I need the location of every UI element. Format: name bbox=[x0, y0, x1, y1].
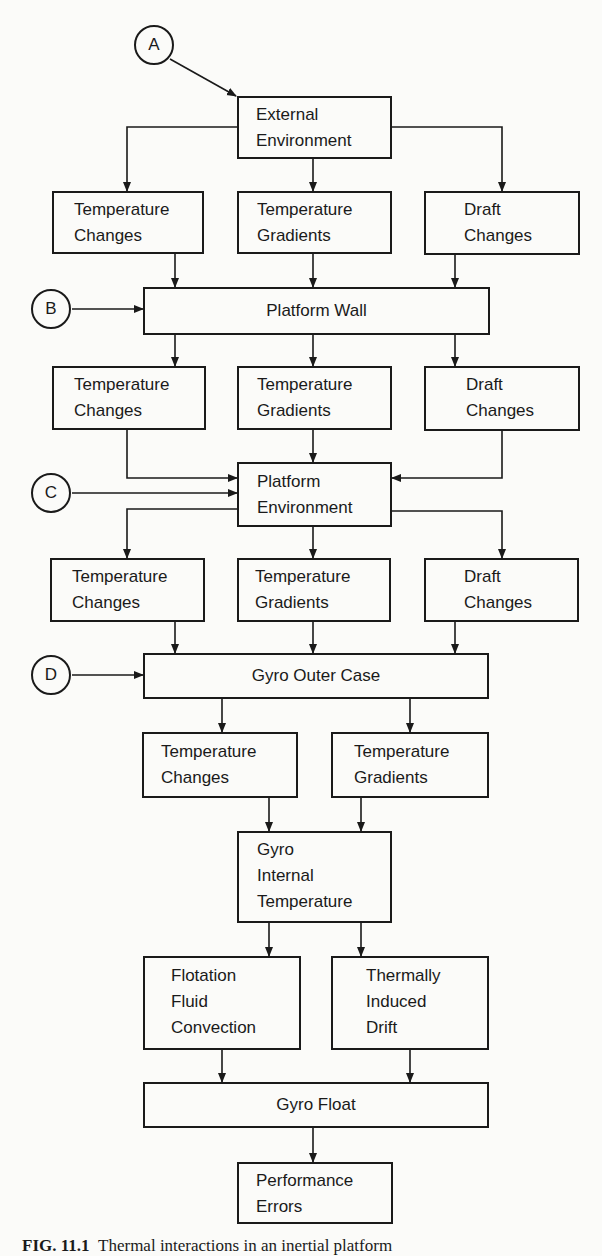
connector-a-label: A bbox=[148, 35, 159, 55]
node-performance-errors: Performance Errors bbox=[237, 1162, 393, 1224]
node-row3-draft-changes: Draft Changes bbox=[424, 558, 579, 622]
node-row2-temperature-changes: Temperature Changes bbox=[52, 366, 206, 430]
node-row4-temperature-changes: Temperature Changes bbox=[142, 732, 298, 798]
node-row2-temperature-gradients: Temperature Gradients bbox=[237, 366, 392, 430]
node-label: Platform Wall bbox=[145, 298, 488, 324]
node-gyro-internal-temperature: Gyro Internal Temperature bbox=[237, 831, 392, 923]
node-flotation-fluid-convection: Flotation Fluid Convection bbox=[143, 956, 301, 1050]
connector-b: B bbox=[31, 289, 71, 329]
node-label: Temperature Gradients bbox=[257, 372, 352, 424]
connector-d-label: D bbox=[45, 665, 57, 685]
node-row1-temperature-changes: Temperature Changes bbox=[52, 191, 204, 254]
connector-b-label: B bbox=[45, 299, 56, 319]
node-label: Temperature Gradients bbox=[257, 197, 352, 249]
connector-a: A bbox=[134, 25, 174, 65]
node-thermally-induced-drift: Thermally Induced Drift bbox=[331, 956, 489, 1050]
node-row2-draft-changes: Draft Changes bbox=[424, 366, 580, 431]
node-label: Gyro Outer Case bbox=[145, 663, 487, 689]
node-label: Gyro Internal Temperature bbox=[257, 837, 352, 915]
connector-d: D bbox=[31, 655, 71, 695]
node-label: Temperature Gradients bbox=[354, 739, 449, 791]
node-label: Temperature Changes bbox=[72, 564, 167, 616]
node-gyro-float: Gyro Float bbox=[143, 1082, 489, 1128]
node-gyro-outer-case: Gyro Outer Case bbox=[143, 653, 489, 699]
node-row3-temperature-changes: Temperature Changes bbox=[50, 558, 205, 622]
figure-caption-label: FIG. 11.1 bbox=[22, 1236, 90, 1255]
node-label: Temperature Gradients bbox=[255, 564, 350, 616]
node-label: Draft Changes bbox=[464, 564, 532, 616]
node-label: Gyro Float bbox=[145, 1092, 487, 1118]
node-row3-temperature-gradients: Temperature Gradients bbox=[237, 558, 391, 622]
connector-c-label: C bbox=[45, 483, 57, 503]
node-platform-environment: Platform Environment bbox=[237, 462, 392, 527]
figure-caption: FIG. 11.1 Thermal interactions in an ine… bbox=[22, 1236, 392, 1256]
node-row1-draft-changes: Draft Changes bbox=[424, 191, 580, 255]
node-label: Performance Errors bbox=[256, 1168, 353, 1220]
node-label: Temperature Changes bbox=[74, 197, 169, 249]
node-row1-temperature-gradients: Temperature Gradients bbox=[237, 191, 392, 254]
figure-caption-text: Thermal interactions in an inertial plat… bbox=[98, 1236, 392, 1255]
node-label: Thermally Induced Drift bbox=[366, 963, 441, 1041]
node-label: Platform Environment bbox=[257, 469, 352, 521]
node-label: Temperature Changes bbox=[161, 739, 256, 791]
node-external-environment: External Environment bbox=[237, 96, 392, 159]
node-label: Draft Changes bbox=[466, 372, 534, 424]
node-label: Draft Changes bbox=[464, 197, 532, 249]
node-label: Flotation Fluid Convection bbox=[171, 963, 256, 1041]
connector-c: C bbox=[31, 473, 71, 513]
node-platform-wall: Platform Wall bbox=[143, 287, 490, 335]
node-label: Temperature Changes bbox=[74, 372, 169, 424]
node-row4-temperature-gradients: Temperature Gradients bbox=[331, 732, 489, 798]
node-label: External Environment bbox=[256, 102, 351, 154]
